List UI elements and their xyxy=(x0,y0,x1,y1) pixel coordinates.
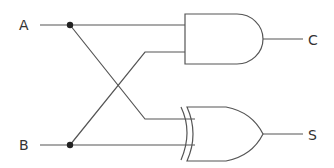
xor-gate xyxy=(181,107,263,161)
half-adder-diagram: A B C S xyxy=(0,0,334,168)
junction-a xyxy=(67,22,73,28)
and-gate xyxy=(185,14,263,64)
output-label-c: C xyxy=(308,32,318,48)
input-label-b: B xyxy=(19,137,29,153)
input-label-a: A xyxy=(19,17,29,33)
output-label-s: S xyxy=(308,127,317,143)
wire-a-to-xor xyxy=(70,25,195,119)
wire-b-to-and xyxy=(70,52,185,145)
junction-b xyxy=(67,142,73,148)
